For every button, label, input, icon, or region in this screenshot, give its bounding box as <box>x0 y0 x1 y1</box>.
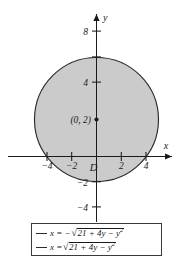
y-axis-label: y <box>102 12 108 23</box>
y-tick-label--2: −2 <box>77 178 88 188</box>
radical-left: √ 21 + 4y − y2 <box>71 228 124 239</box>
legend-right-radicand: 21 + 4y − y <box>69 242 112 252</box>
figure-container: y x 8 4 −2 −4 −4 −2 2 4 D (0, 2) x = − √… <box>0 0 194 264</box>
legend-entry-left-branch: x = − √ 21 + 4y − y2 <box>36 226 158 240</box>
legend-left-radicand: 21 + 4y − y <box>77 228 120 238</box>
y-tick-label-4: 4 <box>83 78 88 88</box>
y-tick-label-8: 8 <box>83 27 88 37</box>
radical-body-right: 21 + 4y − y2 <box>69 242 116 253</box>
legend-right-prefix: x = <box>50 243 62 252</box>
x-tick-label-2: 2 <box>119 161 124 171</box>
center-point-label: (0, 2) <box>70 115 91 126</box>
legend-equation-right: x = √ 21 + 4y − y2 <box>50 242 116 253</box>
radical-sign-icon: √ <box>63 241 69 252</box>
y-tick-label--4: −4 <box>77 203 88 213</box>
y-axis-arrowhead <box>93 14 99 21</box>
legend-left-prefix: x = − <box>50 229 71 238</box>
legend-line-swatch-right <box>36 247 47 248</box>
center-point-marker <box>94 117 98 121</box>
legend-equation-left: x = − √ 21 + 4y − y2 <box>50 228 124 239</box>
radical-sign-icon: √ <box>71 227 77 238</box>
legend-line-swatch-left <box>36 233 47 234</box>
legend: x = − √ 21 + 4y − y2 x = √ 21 + 4y − y2 <box>31 223 162 256</box>
radical-body-left: 21 + 4y − y2 <box>77 228 124 239</box>
legend-entry-right-branch: x = √ 21 + 4y − y2 <box>36 240 158 254</box>
legend-right-exponent: 2 <box>112 240 115 247</box>
x-tick-label--2: −2 <box>66 161 77 171</box>
radical-right: √ 21 + 4y − y2 <box>63 242 116 253</box>
x-axis-label: x <box>163 140 169 151</box>
x-tick-label--4: −4 <box>41 161 52 171</box>
x-axis-arrowhead <box>165 153 172 159</box>
x-tick-label-4: 4 <box>144 161 149 171</box>
legend-left-exponent: 2 <box>120 226 123 233</box>
region-label-d: D <box>89 162 98 173</box>
